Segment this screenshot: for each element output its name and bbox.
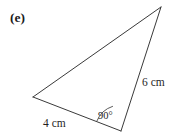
angle-label-right: 90°: [98, 110, 113, 121]
triangle-drawing: [0, 0, 176, 140]
geometry-figure: (e) 4 cm 6 cm 90°: [0, 0, 176, 140]
part-label: (e): [10, 10, 25, 26]
triangle-side-vertical: [121, 7, 161, 131]
side-label-base: 4 cm: [43, 117, 66, 129]
side-label-vertical: 6 cm: [142, 76, 165, 88]
